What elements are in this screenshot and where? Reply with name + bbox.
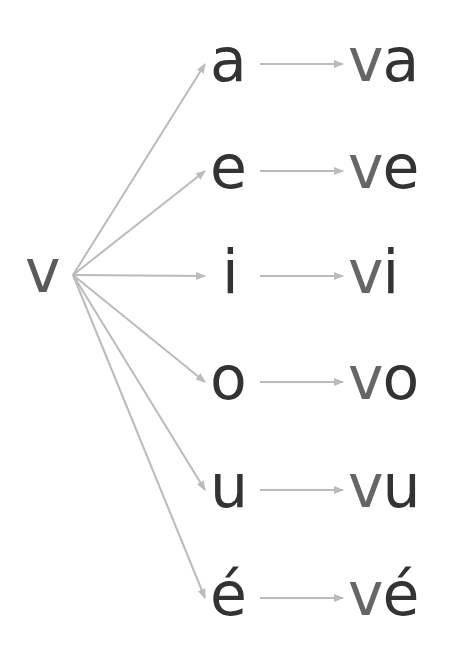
fan-arrow-5 [73, 275, 205, 598]
syllable-vowel: a [383, 25, 419, 95]
syllable-vo: vo [348, 348, 418, 408]
arrows-layer [0, 0, 452, 649]
syllable-diagram: v a va e ve i vi o vo u vu é vé [0, 0, 452, 649]
syllable-va: va [348, 30, 418, 90]
syllable-consonant: v [348, 237, 383, 307]
vowel-i: i [222, 242, 238, 302]
syllable-vowel: o [383, 343, 419, 413]
fan-arrow-2 [73, 275, 205, 276]
syllable-consonant: v [348, 343, 383, 413]
vowel-e: e [210, 137, 246, 197]
vowel-e-acute: é [210, 564, 246, 624]
vowel-a: a [210, 30, 246, 90]
syllable-vowel: é [383, 559, 419, 629]
vowel-o: o [210, 348, 246, 408]
syllable-consonant: v [348, 25, 383, 95]
fan-arrow-0 [73, 64, 205, 275]
fan-arrow-3 [73, 275, 205, 382]
syllable-ve-acute: vé [348, 564, 418, 624]
syllable-ve: ve [348, 137, 418, 197]
syllable-vu: vu [348, 456, 420, 516]
fan-arrow-4 [73, 275, 205, 490]
fan-arrow-1 [73, 171, 205, 275]
syllable-vowel: e [383, 132, 419, 202]
root-consonant: v [25, 241, 60, 301]
syllable-consonant: v [348, 132, 383, 202]
syllable-consonant: v [348, 559, 383, 629]
syllable-vi: vi [348, 242, 398, 302]
syllable-vowel: u [383, 451, 420, 521]
syllable-consonant: v [348, 451, 383, 521]
vowel-u: u [210, 456, 247, 516]
syllable-vowel: i [383, 237, 399, 307]
